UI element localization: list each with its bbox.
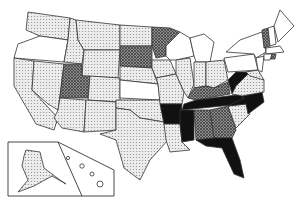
state-sd: [120, 46, 152, 68]
state-in: [194, 62, 206, 88]
us-choropleth-map: [0, 0, 298, 212]
state-ms: [180, 110, 194, 142]
hawaii-island: [97, 181, 103, 187]
hawaii-island: [90, 172, 94, 176]
state-ny: [226, 32, 266, 58]
state-or: [14, 36, 68, 62]
state-nm: [84, 100, 116, 132]
state-wa: [26, 12, 70, 40]
state-fl: [196, 138, 244, 178]
state-mt: [76, 20, 120, 50]
state-az: [54, 98, 86, 132]
state-ri: [271, 54, 276, 59]
state-wy: [82, 50, 120, 78]
state-mi: [190, 34, 214, 62]
state-ar: [160, 104, 182, 124]
hawaii-island: [66, 156, 69, 159]
hawaii-island: [80, 164, 84, 168]
state-co: [88, 76, 120, 102]
map-svg: [0, 0, 298, 212]
state-pa: [224, 54, 258, 72]
state-ma: [266, 46, 284, 54]
state-me: [274, 10, 294, 42]
alaska-hawaii-inset: [8, 142, 114, 196]
state-nd: [120, 25, 152, 46]
